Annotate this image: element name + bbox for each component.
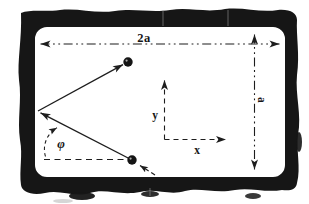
width-dimension: 2a bbox=[41, 31, 280, 45]
width-dimension-label: 2a bbox=[137, 31, 151, 45]
upper-ball-highlight bbox=[126, 60, 128, 62]
x-axis-label: x bbox=[194, 144, 200, 156]
phi-angle-label: φ bbox=[57, 136, 65, 151]
ink-blob bbox=[69, 192, 95, 200]
lower-ball bbox=[127, 155, 136, 164]
incoming-direction-arrow bbox=[140, 166, 155, 176]
upper-ball-body bbox=[123, 57, 132, 66]
y-axis-label: y bbox=[152, 109, 158, 122]
lower-ball-body bbox=[127, 155, 136, 164]
scan-smudge bbox=[53, 199, 73, 203]
ink-blob bbox=[245, 193, 261, 199]
trajectory-to-wall bbox=[41, 113, 133, 160]
coordinate-axes: y x bbox=[152, 80, 226, 156]
height-dimension: a bbox=[255, 35, 269, 170]
ink-blob bbox=[296, 132, 302, 152]
upper-ball bbox=[123, 57, 132, 66]
phi-angle-arc bbox=[44, 128, 57, 157]
physics-figure: 2a a y x φ bbox=[0, 0, 309, 204]
lower-ball-highlight bbox=[130, 158, 132, 160]
height-dimension-label: a bbox=[256, 97, 268, 103]
trajectory-to-upper-ball bbox=[38, 65, 123, 111]
figure-canvas: 2a a y x φ bbox=[0, 0, 309, 204]
